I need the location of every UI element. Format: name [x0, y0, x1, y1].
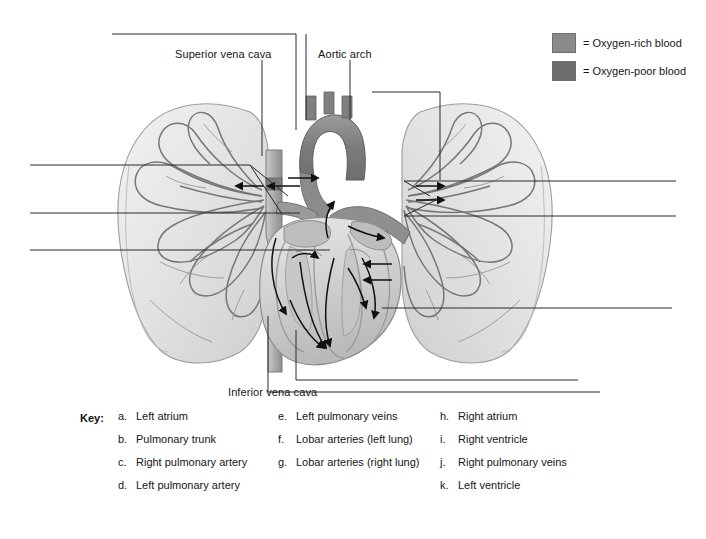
label-superior-vena-cava: Superior vena cava — [175, 48, 272, 60]
legend-item-oxygen-rich: = Oxygen-rich blood — [552, 32, 686, 54]
key-text-j: Right pulmonary veins — [440, 456, 620, 469]
legend-label-oxygen-rich: = Oxygen-rich blood — [583, 37, 682, 49]
key-entry-i: i. Right ventricle — [440, 433, 620, 446]
key-letter-g: g. — [278, 456, 292, 469]
key-letter-f: f. — [278, 433, 292, 446]
key-entry-c: c. Right pulmonary artery — [118, 456, 278, 469]
key-text-f: Lobar arteries (left lung) — [278, 433, 443, 446]
key-letter-j: j. — [440, 456, 454, 469]
key-entry-a: a. Left atrium — [118, 410, 278, 423]
key-text-g: Lobar arteries (right lung) — [278, 456, 443, 469]
key-letter-k: k. — [440, 479, 454, 492]
key-column-1: a. Left atrium b. Pulmonary trunk c. Rig… — [118, 410, 278, 502]
oxygen-rich-swatch — [552, 33, 576, 53]
key-column-2: e. Left pulmonary veins f. Lobar arterie… — [278, 410, 443, 479]
key-text-h: Right atrium — [440, 410, 620, 423]
diagram-canvas: Superior vena cava Aortic arch Inferior … — [0, 0, 706, 539]
label-aortic-arch: Aortic arch — [318, 48, 372, 60]
key-letter-a: a. — [118, 410, 132, 423]
key-entry-g: g. Lobar arteries (right lung) — [278, 456, 443, 469]
left-lung — [118, 104, 268, 363]
key-text-c: Right pulmonary artery — [118, 456, 278, 469]
key-entry-f: f. Lobar arteries (left lung) — [278, 433, 443, 446]
key-text-b: Pulmonary trunk — [118, 433, 278, 446]
key-title: Key: — [80, 412, 104, 424]
legend-item-oxygen-poor: = Oxygen-poor blood — [552, 60, 686, 82]
label-inferior-vena-cava: Inferior vena cava — [228, 386, 317, 398]
key-entry-b: b. Pulmonary trunk — [118, 433, 278, 446]
key-letter-h: h. — [440, 410, 454, 423]
right-lung — [402, 104, 552, 363]
key-text-a: Left atrium — [118, 410, 278, 423]
aortic-arch-vessel — [300, 92, 366, 222]
key-entry-d: d. Left pulmonary artery — [118, 479, 278, 492]
key-column-3: h. Right atrium i. Right ventricle j. Ri… — [440, 410, 620, 502]
key-text-e: Left pulmonary veins — [278, 410, 443, 423]
key-entry-e: e. Left pulmonary veins — [278, 410, 443, 423]
key-letter-e: e. — [278, 410, 292, 423]
legend-label-oxygen-poor: = Oxygen-poor blood — [583, 65, 686, 77]
key-letter-i: i. — [440, 433, 454, 446]
legend: = Oxygen-rich blood = Oxygen-poor blood — [552, 32, 686, 88]
key-letter-c: c. — [118, 456, 132, 469]
key-entry-h: h. Right atrium — [440, 410, 620, 423]
key-text-d: Left pulmonary artery — [118, 479, 278, 492]
key-letter-b: b. — [118, 433, 132, 446]
key-entry-k: k. Left ventricle — [440, 479, 620, 492]
oxygen-poor-swatch — [552, 61, 576, 81]
key-entry-j: j. Right pulmonary veins — [440, 456, 620, 469]
key-text-k: Left ventricle — [440, 479, 620, 492]
key-letter-d: d. — [118, 479, 132, 492]
key-text-i: Right ventricle — [440, 433, 620, 446]
